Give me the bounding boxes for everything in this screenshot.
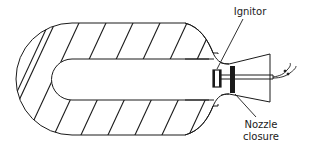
nozzle-closure-label: Nozzle closure: [238, 119, 284, 143]
ignitor-label: Ignitor: [228, 6, 272, 18]
central-bore-outline: [52, 59, 213, 100]
ignitor-lead-wires: [273, 63, 296, 78]
nozzle-closure-label-line1: Nozzle: [238, 119, 284, 131]
nozzle-closure-label-line2: closure: [238, 131, 284, 143]
